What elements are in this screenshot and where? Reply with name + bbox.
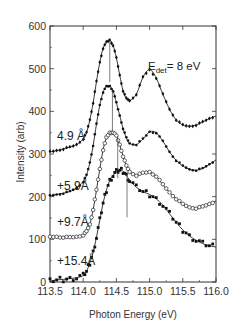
- annotation-rest: = 8 eV: [167, 60, 201, 72]
- y-tick-label: 200: [28, 191, 46, 203]
- x-tick-label: 116.0: [203, 285, 229, 297]
- y-tick-label: 100: [28, 233, 46, 245]
- x-tick-label: 114.5: [104, 285, 130, 297]
- y-tick-label: 600: [28, 20, 46, 32]
- x-axis-title: Photon Energy (eV): [89, 309, 177, 320]
- y-tick-label: 0: [40, 276, 46, 288]
- y-tick-labels: 0100200300400500600: [28, 20, 46, 288]
- y-axis-title: Intensity (arb): [15, 121, 26, 182]
- curve-label: +15.4Å: [57, 253, 95, 268]
- x-tick-label: 115.0: [137, 285, 163, 297]
- y-tick-label: 400: [28, 105, 46, 117]
- xas-spectra-chart: 113.5114.0114.5115.0115.5116.0 010020030…: [0, 0, 238, 328]
- curve-label: +5.9Å: [57, 178, 89, 193]
- curve-label: +9.7Å: [57, 214, 89, 229]
- detection-energy-annotation: Edet= 8 eV: [148, 60, 201, 75]
- x-tick-label: 114.0: [70, 285, 96, 297]
- y-tick-label: 300: [28, 148, 46, 160]
- curve-label: 4.9 Å: [57, 128, 85, 143]
- x-tick-labels: 113.5114.0114.5115.0115.5116.0: [37, 285, 229, 297]
- x-tick-label: 115.5: [170, 285, 196, 297]
- y-tick-label: 500: [28, 63, 46, 75]
- spectra-curves: [48, 38, 216, 283]
- annotation-subscript: det: [156, 66, 168, 75]
